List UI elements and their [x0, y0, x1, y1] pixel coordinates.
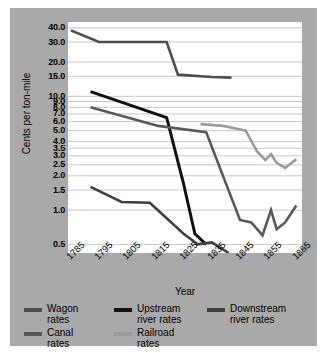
legend-label: Wagon rates [47, 304, 78, 325]
y-tick-label: 1.5 [53, 186, 65, 195]
plot-area [68, 22, 302, 253]
series-line-wagon-rates [71, 30, 232, 77]
legend-item[interactable]: Wagon rates [24, 304, 78, 325]
y-axis-tick-labels: 40.030.020.015.010.09.08.07.06.05.04.03.… [10, 22, 65, 253]
y-tick-label: 5.0 [53, 126, 65, 135]
legend-swatch-icon [114, 308, 132, 312]
legend-label: Downstream river rates [230, 304, 286, 325]
legend-swatch-icon [207, 308, 225, 312]
legend-label: Railroad rates [137, 328, 174, 349]
chart-figure: 40.030.020.015.010.09.08.07.06.05.04.03.… [10, 8, 317, 346]
legend-item[interactable]: Downstream river rates [207, 304, 286, 325]
chart-svg [68, 22, 302, 253]
y-axis-title: Cents per ton-mile [21, 54, 32, 174]
y-tick-label: 20.0 [48, 58, 65, 67]
y-tick-label: 15.0 [48, 72, 65, 81]
legend-label: Upstream river rates [137, 304, 181, 325]
legend-swatch-icon [24, 332, 42, 336]
legend-swatch-icon [24, 308, 42, 312]
chart-legend: Wagon ratesUpstream river ratesDownstrea… [24, 304, 309, 348]
x-axis-title: Year [68, 286, 302, 297]
y-tick-label: 40.0 [48, 23, 65, 32]
x-axis-tick-labels: 178517951805181518251835184518551865 [68, 254, 302, 288]
y-tick-label: 1.0 [53, 206, 65, 215]
y-tick-label: 2.5 [53, 160, 65, 169]
y-tick-label: 0.5 [53, 240, 65, 249]
legend-swatch-icon [114, 332, 132, 336]
y-tick-label: 30.0 [48, 38, 65, 47]
legend-label: Canal rates [47, 328, 73, 349]
legend-item[interactable]: Upstream river rates [114, 304, 181, 325]
legend-item[interactable]: Railroad rates [114, 328, 174, 349]
y-tick-label: 2.0 [53, 171, 65, 180]
legend-item[interactable]: Canal rates [24, 328, 73, 349]
series-line-upstream-river-rates [91, 92, 207, 245]
series-line-canal-rates [91, 107, 297, 235]
plot-canvas [68, 22, 302, 253]
